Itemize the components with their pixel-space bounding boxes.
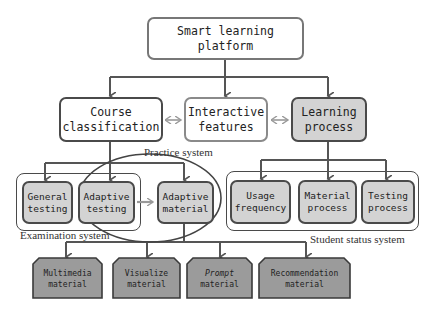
usage-frequency-line1: Usage [235, 190, 286, 202]
learning-process-line1: Learning [301, 105, 356, 119]
material-process-node: Materialprocess [298, 180, 357, 224]
adaptive-material-node: Adaptivematerial [157, 181, 214, 224]
student-status-system-caption: Student status system [310, 233, 405, 245]
interactive-features-line1: Interactive [188, 105, 264, 119]
course-classification-line2: classification [63, 120, 160, 134]
recommendation-material-line2: material [271, 279, 338, 290]
examination-system-caption: Examination system [20, 229, 110, 241]
interactive-features-node: Interactivefeatures [184, 97, 268, 142]
adaptive-material-line2: material [163, 203, 209, 215]
multimedia-material-line2: material [43, 279, 91, 290]
smart-learning-platform-node: Smart learning platform [147, 17, 304, 60]
adaptive-material-line1: Adaptive [163, 191, 209, 203]
general-testing-line1: General [27, 191, 67, 203]
material-process-line2: process [305, 202, 351, 214]
recommendation-material-line1: Recommendation [271, 268, 338, 279]
testing-process-node: Testingprocess [361, 180, 415, 224]
usage-frequency-line2: frequency [235, 202, 286, 214]
multimedia-material-line1: Multimedia [43, 268, 91, 279]
testing-process-line1: Testing [368, 190, 408, 202]
adaptive-testing-node: Adaptivetesting [78, 181, 135, 224]
visualize-material-line2: material [125, 279, 168, 290]
prompt-material-line1: Prompt [200, 268, 239, 279]
course-classification-line1: Course [63, 105, 160, 119]
prompt-material-node: Promptmaterial [187, 260, 252, 298]
adaptive-testing-line1: Adaptive [84, 191, 130, 203]
testing-process-line2: process [368, 202, 408, 214]
learning-process-line2: process [301, 120, 356, 134]
visualize-material-node: Visualizematerial [113, 260, 180, 298]
usage-frequency-node: Usagefrequency [230, 180, 291, 224]
visualize-material-line1: Visualize [125, 268, 168, 279]
general-testing-node: Generaltesting [22, 181, 73, 224]
recommendation-material-node: Recommendationmaterial [259, 260, 350, 298]
learning-process-node: Learningprocess [291, 97, 367, 142]
interactive-features-line2: features [188, 120, 264, 134]
general-testing-line2: testing [27, 203, 67, 215]
multimedia-material-node: Multimediamaterial [33, 260, 102, 298]
prompt-material-line2: material [200, 279, 239, 290]
practice-system-caption: Practice system [144, 146, 213, 158]
material-process-line1: Material [305, 190, 351, 202]
course-classification-node: Courseclassification [59, 97, 163, 142]
adaptive-testing-line2: testing [84, 203, 130, 215]
root-label: Smart learning platform [149, 24, 302, 53]
